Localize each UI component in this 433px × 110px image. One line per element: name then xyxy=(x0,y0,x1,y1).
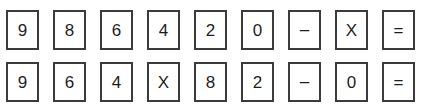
minus-icon: – xyxy=(300,73,309,90)
key-box[interactable]: 4 xyxy=(100,62,133,102)
key-label: 2 xyxy=(206,22,215,39)
key-box[interactable]: 2 xyxy=(194,10,227,50)
key-label: 2 xyxy=(253,74,262,91)
key-box-equals[interactable]: = xyxy=(382,62,415,102)
key-row-0: 9 8 6 4 2 0 – X = xyxy=(6,10,415,50)
key-label: 9 xyxy=(18,22,27,39)
equals-icon: = xyxy=(394,22,404,39)
key-box[interactable]: 6 xyxy=(53,62,86,102)
key-box[interactable]: 8 xyxy=(53,10,86,50)
key-box-minus[interactable]: – xyxy=(288,62,321,102)
key-box[interactable]: 4 xyxy=(147,10,180,50)
times-icon: X xyxy=(158,74,169,91)
key-box[interactable]: 2 xyxy=(241,62,274,102)
key-box[interactable]: 6 xyxy=(100,10,133,50)
key-label: 4 xyxy=(112,74,121,91)
times-icon: X xyxy=(346,22,357,39)
key-box-minus[interactable]: – xyxy=(288,10,321,50)
key-box-equals[interactable]: = xyxy=(382,10,415,50)
key-label: 0 xyxy=(347,74,356,91)
key-box[interactable]: 9 xyxy=(6,62,39,102)
key-box[interactable]: 0 xyxy=(335,62,368,102)
equals-icon: = xyxy=(394,74,404,91)
key-label: 9 xyxy=(18,74,27,91)
key-box-times[interactable]: X xyxy=(147,62,180,102)
key-row-1: 9 6 4 X 8 2 – 0 = xyxy=(6,62,415,102)
key-label: 8 xyxy=(65,22,74,39)
key-box-times[interactable]: X xyxy=(335,10,368,50)
key-label: 4 xyxy=(159,22,168,39)
key-box[interactable]: 9 xyxy=(6,10,39,50)
key-label: 8 xyxy=(206,74,215,91)
keypad-canvas: 9 8 6 4 2 0 – X = 9 6 xyxy=(0,0,433,110)
key-label: 6 xyxy=(112,22,121,39)
key-label: 6 xyxy=(65,74,74,91)
key-box[interactable]: 0 xyxy=(241,10,274,50)
minus-icon: – xyxy=(300,21,309,38)
key-box[interactable]: 8 xyxy=(194,62,227,102)
key-label: 0 xyxy=(253,22,262,39)
